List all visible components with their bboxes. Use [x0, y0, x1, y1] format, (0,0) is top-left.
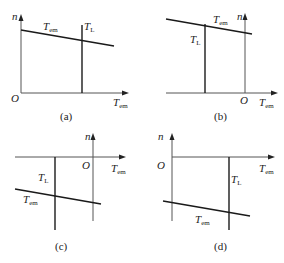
- panel-caption: (c): [55, 240, 68, 253]
- panel-a: n Tem TL O Tem (a): [11, 10, 129, 123]
- origin-label: O: [11, 92, 19, 104]
- n-axis-label: n: [237, 10, 243, 22]
- panel-caption: (b): [214, 110, 227, 123]
- motor-operating-quadrants-figure: n Tem TL O Tem (a) n Tem TL O Tem (b) n …: [0, 0, 284, 263]
- n-axis-arrow-icon: [91, 133, 96, 140]
- tl-label: TL: [84, 20, 94, 34]
- tem-curve-label: Tem: [43, 20, 58, 34]
- tem-axis-arrow-icon: [122, 91, 129, 96]
- n-axis-arrow-icon: [19, 14, 24, 21]
- tem-axis-label: Tem: [259, 162, 274, 176]
- n-axis-arrow-icon: [170, 133, 175, 140]
- panel-caption: (d): [214, 240, 227, 253]
- n-axis-label: n: [12, 10, 18, 22]
- tem-axis-arrow-icon: [268, 155, 275, 160]
- tl-label: TL: [190, 33, 200, 47]
- n-axis-label: n: [158, 130, 164, 142]
- tem-axis-label: Tem: [259, 96, 274, 110]
- tem-characteristic-line: [21, 30, 114, 46]
- origin-label: O: [157, 159, 165, 171]
- origin-label: O: [82, 159, 90, 171]
- panel-caption: (a): [60, 110, 73, 123]
- tem-curve-label: Tem: [213, 13, 228, 27]
- n-axis-label: n: [85, 130, 91, 142]
- panel-c: n O Tem TL Tem (c): [15, 130, 126, 253]
- panel-b: n Tem TL O Tem (b): [166, 10, 278, 123]
- tem-curve-label: Tem: [195, 213, 210, 227]
- tem-axis-label: Tem: [113, 96, 128, 110]
- origin-label: O: [240, 94, 248, 106]
- tl-label: TL: [38, 171, 48, 185]
- tem-axis-arrow-icon: [271, 91, 278, 96]
- panel-d: n O Tem TL Tem (d): [157, 130, 275, 253]
- n-axis-arrow-icon: [243, 13, 248, 20]
- tem-curve-label: Tem: [23, 193, 38, 207]
- tem-axis-arrow-icon: [119, 155, 126, 160]
- tem-axis-label: Tem: [111, 162, 126, 176]
- tem-characteristic-line: [163, 201, 250, 216]
- tl-label: TL: [231, 173, 241, 187]
